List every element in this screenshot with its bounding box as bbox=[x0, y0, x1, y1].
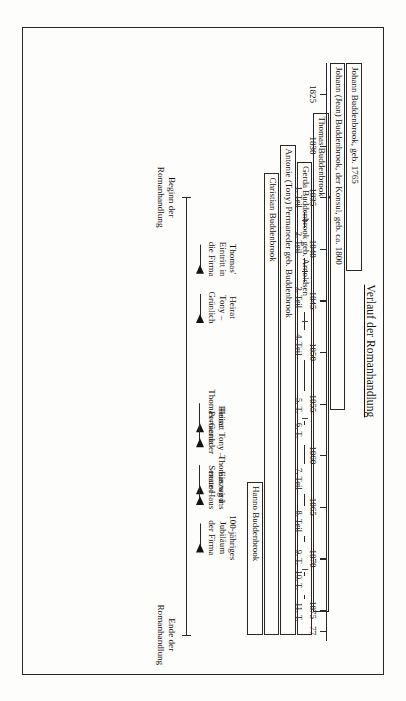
lifespan-bar-label: Christian Buddenbrook bbox=[267, 177, 276, 261]
lifespan-bar: Johann Buddenbrook, geb. 1765 bbox=[347, 63, 363, 271]
axis-tick bbox=[321, 630, 328, 631]
plot-course-line bbox=[186, 197, 187, 635]
event-heirat-tony-permaneder: Heirat Tony –Permaneder bbox=[195, 407, 227, 457]
course-start-label: Beginn derRomanhandlung bbox=[155, 166, 177, 227]
event-pointer-arrow-icon bbox=[195, 475, 204, 505]
lifespan-bar: Christian Buddenbrook bbox=[264, 173, 280, 634]
lifespan-bar: Antonie (Tony) Permaneder geb. Buddenbro… bbox=[281, 144, 297, 634]
lifespan-bar-label: Gerda Buddenbrook geb. Arnoldsen bbox=[300, 166, 309, 296]
event-pointer-arrow-icon bbox=[196, 292, 205, 322]
figure-title: Verlauf der Romanhandlung bbox=[365, 27, 377, 675]
lifespan-bar-label: Thomas Buddenbrook bbox=[317, 116, 326, 196]
event-label: Einzug insneue Haus bbox=[206, 471, 227, 509]
lifespan-bar-label: Hanno Buddenbrook bbox=[251, 486, 260, 561]
event-pointer-arrow-icon bbox=[196, 522, 205, 552]
rotated-figure-stage: Verlauf der Romanhandlung 18251830183518… bbox=[22, 27, 384, 675]
event-label: HeiratTony –Grünlich bbox=[207, 291, 238, 323]
course-end-label: Ende derRomanhandlung bbox=[155, 604, 177, 665]
event-jubilaeum-firma: 100-jährigesJubiläumder Firma bbox=[196, 515, 238, 560]
lifespan-bar: Hanno Buddenbrook bbox=[248, 482, 264, 635]
event-label: Heirat Tony –Permaneder bbox=[206, 407, 227, 457]
event-einzug-neue-haus: Einzug insneue Haus bbox=[195, 471, 227, 509]
axis-tick bbox=[321, 93, 328, 94]
lifespan-bar: Thomas Buddenbrook bbox=[314, 112, 330, 612]
event-pointer-arrow-icon bbox=[195, 417, 204, 447]
lifespan-bar-label: Antonie (Tony) Permaneder geb. Buddenbro… bbox=[284, 148, 293, 318]
course-start-tick bbox=[182, 197, 191, 198]
axis-tick-label: 1825 bbox=[308, 84, 318, 102]
lifespan-bar-label: Johann Buddenbrook, geb. 1765 bbox=[350, 67, 359, 184]
figure-page: Verlauf der Romanhandlung 18251830183518… bbox=[0, 0, 406, 701]
lifespan-bar-label: Johann (Jean) Buddenbrook, der Konsul, g… bbox=[333, 67, 342, 265]
course-end-tick bbox=[182, 634, 191, 635]
event-heirat-tony-gruenlich: HeiratTony –Grünlich bbox=[196, 291, 238, 323]
lifespan-bar: Gerda Buddenbrook geb. Arnoldsen bbox=[297, 162, 313, 635]
event-label: 100-jährigesJubiläumder Firma bbox=[207, 515, 238, 560]
lifespan-bar: Johann (Jean) Buddenbrook, der Konsul, g… bbox=[330, 63, 346, 410]
event-pointer-arrow-icon bbox=[196, 244, 205, 274]
event-thomas-eintritt-firma: Thomas'Eintritt indie Firma bbox=[196, 241, 238, 276]
event-label: Thomas'Eintritt indie Firma bbox=[207, 241, 238, 276]
